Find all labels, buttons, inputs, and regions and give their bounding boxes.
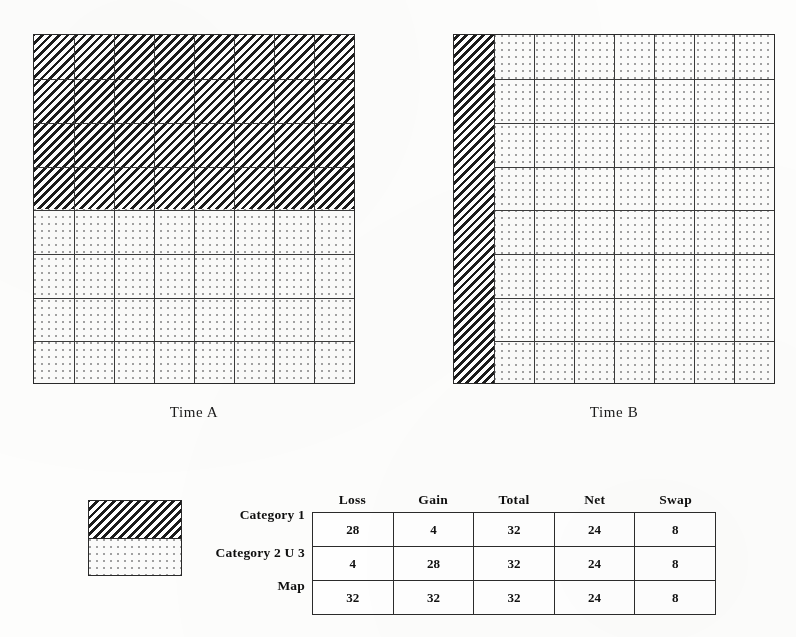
table-cell: 28 bbox=[313, 513, 394, 547]
table-cell: 28 bbox=[393, 547, 474, 581]
legend-label-category-2-3: Category 2 U 3 bbox=[130, 545, 305, 561]
table-cell: 32 bbox=[474, 547, 555, 581]
column-header-net: Net bbox=[554, 492, 635, 508]
map-time-b bbox=[453, 34, 775, 384]
column-header-swap: Swap bbox=[635, 492, 716, 508]
table-cell: 8 bbox=[635, 581, 716, 615]
legend-label-category-1: Category 1 bbox=[130, 507, 305, 523]
table-row-label-map: Map bbox=[130, 578, 305, 594]
map-time-b-band-category-1 bbox=[454, 35, 494, 383]
column-header-loss: Loss bbox=[312, 492, 393, 508]
table-cell: 24 bbox=[554, 513, 635, 547]
map-time-a-band-category-2-3 bbox=[34, 209, 354, 383]
table-cell: 32 bbox=[474, 513, 555, 547]
map-time-b-band-category-2-3 bbox=[494, 35, 774, 383]
table-cell: 24 bbox=[554, 547, 635, 581]
table-cell: 4 bbox=[393, 513, 474, 547]
map-time-a-caption: Time A bbox=[33, 404, 355, 421]
figure-canvas: Time A Time B Category 1 Category 2 U 3 bbox=[0, 0, 796, 637]
map-time-a bbox=[33, 34, 355, 384]
table-cell: 32 bbox=[393, 581, 474, 615]
table-row: 28 4 32 24 8 bbox=[313, 513, 716, 547]
table-row: 4 28 32 24 8 bbox=[313, 547, 716, 581]
table-cell: 32 bbox=[474, 581, 555, 615]
data-table-body: 28 4 32 24 8 4 28 32 24 8 32 32 32 bbox=[312, 512, 716, 615]
table-row: 32 32 32 24 8 bbox=[313, 581, 716, 615]
column-header-gain: Gain bbox=[393, 492, 474, 508]
data-table-header-row: Loss Gain Total Net Swap bbox=[312, 492, 716, 508]
map-time-a-band-category-1 bbox=[34, 35, 354, 209]
map-time-b-caption: Time B bbox=[453, 404, 775, 421]
column-header-total: Total bbox=[474, 492, 555, 508]
table-cell: 24 bbox=[554, 581, 635, 615]
table-cell: 32 bbox=[313, 581, 394, 615]
table-cell: 4 bbox=[313, 547, 394, 581]
table-cell: 8 bbox=[635, 547, 716, 581]
table-cell: 8 bbox=[635, 513, 716, 547]
data-table: Loss Gain Total Net Swap 28 4 32 24 8 4 … bbox=[312, 492, 716, 615]
